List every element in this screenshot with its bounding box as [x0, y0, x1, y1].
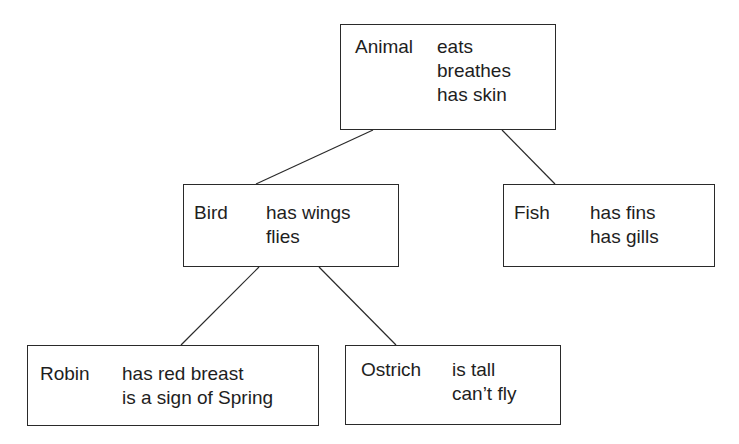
node-name: Animal: [355, 35, 413, 59]
property: has wings: [266, 201, 351, 225]
node-properties: is tall can’t fly: [452, 358, 516, 406]
property: can’t fly: [452, 382, 516, 406]
property: has fins: [590, 201, 659, 225]
edge-bird-robin: [181, 267, 259, 345]
node-properties: has red breast is a sign of Spring: [122, 362, 273, 410]
node-name: Bird: [194, 201, 228, 225]
property: flies: [266, 225, 351, 249]
node-properties: has wings flies: [266, 201, 351, 249]
edge-animal-fish: [502, 130, 555, 184]
node-bird: Bird has wings flies: [183, 184, 399, 267]
node-name: Robin: [40, 362, 90, 386]
property: is tall: [452, 358, 516, 382]
node-properties: eats breathes has skin: [437, 35, 511, 107]
node-fish: Fish has fins has gills: [503, 184, 715, 267]
node-name: Fish: [514, 201, 550, 225]
property: breathes: [437, 59, 511, 83]
property: is a sign of Spring: [122, 386, 273, 410]
edge-bird-ostrich: [319, 267, 396, 345]
property: has skin: [437, 83, 511, 107]
node-robin: Robin has red breast is a sign of Spring: [27, 345, 319, 426]
edge-animal-bird: [256, 130, 373, 184]
node-name: Ostrich: [361, 358, 421, 382]
node-animal: Animal eats breathes has skin: [340, 24, 556, 130]
property: has gills: [590, 225, 659, 249]
semantic-network-diagram: Animal eats breathes has skin Bird has w…: [0, 0, 739, 444]
property: eats: [437, 35, 511, 59]
node-properties: has fins has gills: [590, 201, 659, 249]
node-ostrich: Ostrich is tall can’t fly: [345, 345, 561, 425]
property: has red breast: [122, 362, 273, 386]
